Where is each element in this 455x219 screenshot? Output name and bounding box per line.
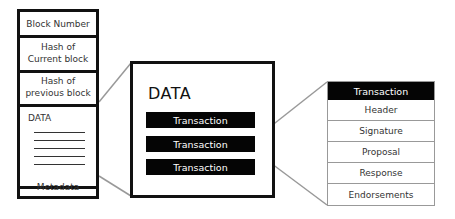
transaction-field: Endorsements — [328, 184, 434, 205]
transaction-field: Signature — [328, 121, 434, 142]
transaction-bar: Transaction — [146, 112, 255, 128]
transaction-field: Proposal — [328, 142, 434, 163]
data-title: DATA — [148, 84, 191, 103]
transaction-field: Response — [328, 163, 434, 184]
current-hash-field: Hash of Current block — [20, 35, 96, 73]
zoom-connector-top — [99, 63, 131, 102]
current-hash-label: Hash of Current block — [28, 41, 89, 65]
previous-hash-label: Hash of previous block — [25, 75, 90, 99]
transaction-bar: Transaction — [146, 159, 255, 175]
metadata-label: Metadata — [37, 181, 80, 193]
data-lines-icon — [34, 132, 85, 172]
data-field-label: DATA — [28, 112, 51, 124]
previous-hash-field: Hash of previous block — [20, 70, 96, 107]
zoom-connector-bottom — [99, 176, 131, 196]
block-structure: Block Number Hash of Current block Hash … — [17, 9, 99, 199]
transaction-detail-table: Transaction Header Signature Proposal Re… — [327, 81, 435, 206]
block-number-label: Block Number — [26, 18, 89, 30]
data-field: DATA — [20, 104, 96, 189]
transaction-header: Transaction — [328, 82, 434, 100]
metadata-field: Metadata — [20, 178, 96, 196]
data-detail-box: DATA Transaction Transaction Transaction — [130, 61, 275, 198]
transaction-field: Header — [328, 100, 434, 121]
transaction-bar: Transaction — [146, 136, 255, 152]
